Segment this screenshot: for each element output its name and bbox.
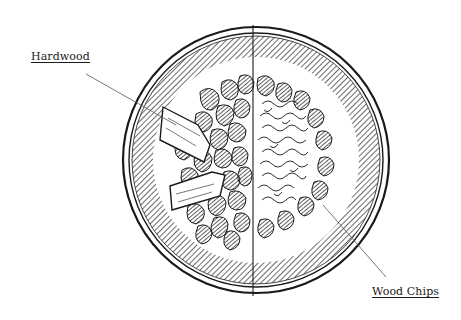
label-hardwood: Hardwood — [31, 50, 90, 63]
plate-rim — [123, 27, 389, 293]
plate-illustration — [0, 0, 461, 320]
illustration: Hardwood Wood Chips — [0, 0, 461, 320]
label-wood-chips: Wood Chips — [372, 285, 439, 298]
